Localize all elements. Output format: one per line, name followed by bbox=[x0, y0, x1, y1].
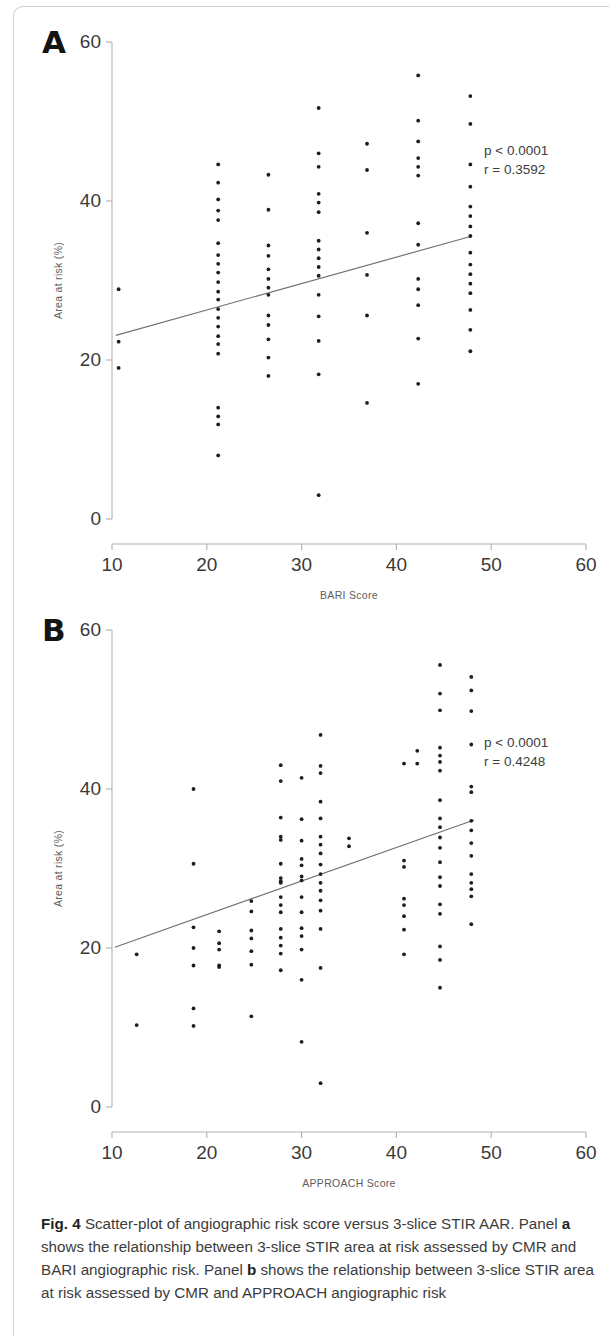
data-point bbox=[438, 836, 442, 840]
data-point bbox=[249, 949, 253, 953]
data-point bbox=[468, 272, 472, 276]
data-point bbox=[416, 382, 420, 386]
data-point bbox=[279, 927, 283, 931]
data-point bbox=[416, 287, 420, 291]
figure-card: A 0204060Area at risk (%)102030405060BAR… bbox=[13, 6, 609, 1336]
data-point bbox=[300, 875, 304, 879]
data-point bbox=[468, 94, 472, 98]
data-point bbox=[279, 944, 283, 948]
x-axis-title: APPROACH Score bbox=[302, 1177, 395, 1189]
data-point bbox=[249, 1014, 253, 1018]
y-tick-label: 20 bbox=[80, 937, 101, 958]
data-point bbox=[402, 928, 406, 932]
data-point bbox=[216, 280, 220, 284]
data-point bbox=[216, 454, 220, 458]
data-point bbox=[300, 895, 304, 899]
data-point bbox=[416, 277, 420, 281]
data-point bbox=[468, 185, 472, 189]
data-point bbox=[317, 151, 321, 155]
data-point bbox=[365, 273, 369, 277]
data-point bbox=[300, 857, 304, 861]
data-point bbox=[216, 290, 220, 294]
data-point bbox=[416, 174, 420, 178]
y-tick-label: 60 bbox=[80, 31, 101, 52]
data-point bbox=[267, 267, 271, 271]
data-point bbox=[319, 843, 323, 847]
data-point bbox=[267, 277, 271, 281]
data-point bbox=[469, 790, 473, 794]
data-point bbox=[438, 708, 442, 712]
data-point bbox=[267, 244, 271, 248]
data-point bbox=[300, 839, 304, 843]
data-point bbox=[216, 271, 220, 275]
data-point bbox=[192, 1024, 196, 1028]
data-point bbox=[402, 865, 406, 869]
data-point bbox=[279, 763, 283, 767]
data-point bbox=[469, 743, 473, 747]
data-point bbox=[469, 841, 473, 845]
caption-figure-number: Fig. 4 bbox=[41, 1215, 81, 1232]
y-tick-label: 40 bbox=[80, 778, 101, 799]
regression-line bbox=[115, 820, 474, 947]
data-point bbox=[300, 1040, 304, 1044]
data-point bbox=[216, 262, 220, 266]
data-point bbox=[249, 899, 253, 903]
data-point bbox=[317, 293, 321, 297]
data-point bbox=[438, 958, 442, 962]
x-tick-label: 60 bbox=[575, 1142, 596, 1163]
data-point bbox=[416, 243, 420, 247]
data-point bbox=[319, 851, 323, 855]
data-point bbox=[416, 119, 420, 123]
caption-panel-b-ref: b bbox=[247, 1261, 256, 1278]
data-point bbox=[279, 838, 283, 842]
y-axis-title: Area at risk (%) bbox=[52, 242, 64, 319]
data-point bbox=[319, 835, 323, 839]
x-tick-label: 30 bbox=[291, 1142, 312, 1163]
data-point bbox=[438, 825, 442, 829]
data-point bbox=[468, 122, 472, 126]
data-point bbox=[317, 248, 321, 252]
data-point bbox=[249, 929, 253, 933]
data-point bbox=[267, 254, 271, 258]
data-point bbox=[216, 422, 220, 426]
x-tick-label: 50 bbox=[481, 1142, 502, 1163]
data-point bbox=[317, 201, 321, 205]
data-point bbox=[468, 163, 472, 167]
x-tick-label: 50 bbox=[481, 554, 502, 575]
data-point bbox=[469, 881, 473, 885]
data-point bbox=[416, 221, 420, 225]
data-point bbox=[438, 769, 442, 773]
data-point bbox=[279, 910, 283, 914]
data-point bbox=[319, 898, 323, 902]
data-point bbox=[438, 692, 442, 696]
data-point bbox=[216, 325, 220, 329]
data-point bbox=[300, 776, 304, 780]
data-point bbox=[402, 897, 406, 901]
data-point bbox=[300, 879, 304, 883]
data-point bbox=[468, 308, 472, 312]
p-value-annotation: p < 0.0001 bbox=[484, 735, 548, 750]
data-point bbox=[216, 406, 220, 410]
data-point bbox=[267, 374, 271, 378]
data-point bbox=[267, 173, 271, 177]
data-point bbox=[468, 349, 472, 353]
data-point bbox=[469, 854, 473, 858]
data-point bbox=[469, 709, 473, 713]
data-point bbox=[319, 1081, 323, 1085]
data-point bbox=[216, 163, 220, 167]
data-point bbox=[319, 889, 323, 893]
data-point bbox=[416, 139, 420, 143]
data-point bbox=[469, 894, 473, 898]
data-point bbox=[216, 253, 220, 257]
y-tick-label: 0 bbox=[90, 508, 101, 529]
data-point bbox=[402, 903, 406, 907]
data-point bbox=[267, 337, 271, 341]
data-point bbox=[416, 73, 420, 77]
data-point bbox=[267, 286, 271, 290]
data-point bbox=[319, 881, 323, 885]
data-point bbox=[192, 1007, 196, 1011]
data-point bbox=[468, 205, 472, 209]
data-point bbox=[402, 859, 406, 863]
data-point bbox=[279, 936, 283, 940]
data-point bbox=[300, 926, 304, 930]
